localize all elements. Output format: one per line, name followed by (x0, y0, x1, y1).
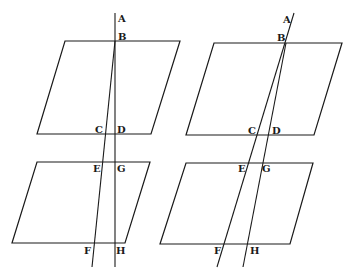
right-label-H: H (250, 245, 259, 256)
left-label-F: F (84, 245, 91, 256)
right-label-D: D (272, 125, 281, 136)
right-label-G: G (262, 163, 271, 174)
right-label-F: F (214, 245, 221, 256)
left-label-H: H (116, 245, 125, 256)
left-label-B: B (118, 31, 126, 42)
right-upper-plane (186, 43, 342, 135)
right-line-AF (217, 13, 294, 267)
left-label-A: A (117, 13, 126, 24)
left-upper-plane (37, 41, 180, 134)
left-label-E: E (93, 163, 101, 174)
right-line-BH (243, 43, 286, 267)
right-label-C: C (248, 125, 256, 136)
left-label-G: G (117, 163, 126, 174)
right-label-E: E (238, 163, 246, 174)
right-label-A: A (282, 14, 291, 25)
left-figure: A B C D E G F H (12, 13, 180, 267)
right-label-B: B (277, 32, 285, 43)
left-line-BF (92, 41, 115, 267)
left-label-D: D (117, 124, 126, 135)
parallel-planes-diagram: A B C D E G F H A B C D E G F H (0, 0, 348, 275)
right-figure: A B C D E G F H (160, 13, 342, 267)
left-lower-plane (12, 162, 150, 243)
left-label-C: C (95, 124, 103, 135)
